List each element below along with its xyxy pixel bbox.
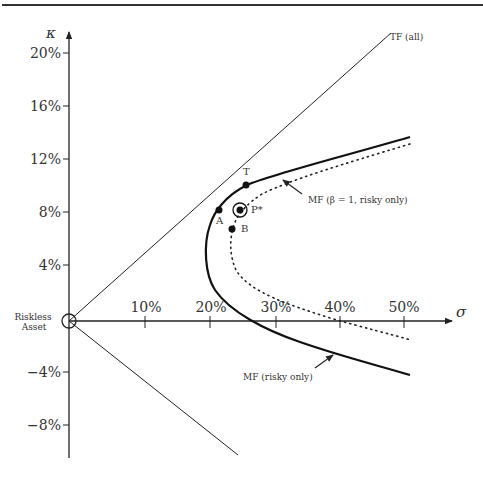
mf-risky-only-label: MF (risky only) xyxy=(243,372,313,382)
efficient-frontier-chart: κ 20% 16% 12% 8% 4% −4% −8% σ 10% 20% xyxy=(0,0,483,477)
y-tick-minus-8: −8% xyxy=(27,417,61,433)
mf-beta-one-curve xyxy=(231,144,411,340)
y-tick-4: 4% xyxy=(39,257,61,273)
tf-all-label: TF (all) xyxy=(390,32,423,42)
y-tick-12: 12% xyxy=(30,151,61,167)
x-tick-30: 30% xyxy=(260,299,291,315)
y-tick-minus-4: −4% xyxy=(27,364,61,380)
x-axis: σ 10% 20% 30% 40% 50% xyxy=(69,299,467,328)
point-T-label: T xyxy=(243,166,250,177)
tf-all-line xyxy=(69,33,391,321)
riskless-asset-label-line1: Riskless xyxy=(14,312,52,322)
mf-beta-one-arrow xyxy=(283,180,302,194)
mf-risky-only-curve xyxy=(206,137,410,375)
y-tick-20: 20% xyxy=(30,45,61,61)
x-axis-symbol: σ xyxy=(456,303,467,321)
point-P-star-label: P* xyxy=(251,204,263,215)
point-T: T xyxy=(243,166,251,189)
y-tick-16: 16% xyxy=(30,98,61,114)
y-axis-symbol: κ xyxy=(45,24,56,42)
point-B: B xyxy=(229,223,249,234)
x-tick-50: 50% xyxy=(388,299,419,315)
riskless-asset-label-line2: Asset xyxy=(21,322,47,332)
lower-ray-line xyxy=(69,321,238,455)
x-tick-20: 20% xyxy=(195,299,226,315)
point-B-label: B xyxy=(241,223,248,234)
x-tick-40: 40% xyxy=(324,299,355,315)
y-tick-8: 8% xyxy=(39,204,61,220)
point-A: A xyxy=(215,207,224,227)
x-tick-10: 10% xyxy=(130,299,161,315)
mf-risky-only-arrow xyxy=(315,355,333,368)
point-A-label: A xyxy=(215,215,224,226)
y-axis: κ 20% 16% 12% 8% 4% −4% −8% xyxy=(27,24,69,458)
mf-beta-one-label: MF (β = 1, risky only) xyxy=(308,195,408,205)
